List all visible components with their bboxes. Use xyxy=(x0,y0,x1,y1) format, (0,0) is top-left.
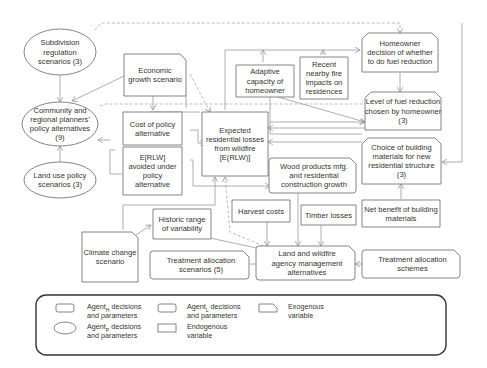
legend-swatch-agent-l xyxy=(158,304,176,312)
node-label-line: nearby fire xyxy=(306,69,342,78)
node-label-line: Expected xyxy=(219,126,251,135)
legend-swatch-agent-p xyxy=(54,322,76,334)
node-label-line: residences xyxy=(306,87,343,96)
node-climate: Climate changescenario xyxy=(82,232,138,282)
node-label-line: (3) xyxy=(397,170,407,179)
legend-swatch-exogenous xyxy=(259,304,277,312)
node-label-line: Level of fuel reduction xyxy=(366,97,440,106)
node-label-line: of variability xyxy=(162,224,202,233)
node-label-line: Cost of policy xyxy=(130,120,176,129)
node-label-line: Subdivision xyxy=(41,38,80,47)
node-label-line: Choice of building xyxy=(371,143,431,152)
node-label-line: alternative xyxy=(135,180,170,189)
node-label-line: avoided under xyxy=(128,162,177,171)
node-label-line: regional planners' xyxy=(30,115,90,124)
node-label-line: Net benefit of building xyxy=(364,205,437,214)
node-label-line: policy xyxy=(143,171,163,180)
node-label-line: Timber losses xyxy=(305,211,352,220)
legend-swatch-agent-h xyxy=(56,304,74,312)
node-label-line: Historic range xyxy=(159,215,206,224)
node-economic: Economicgrowth scenario xyxy=(124,54,186,96)
node-erlw-avoided: E[RLW]avoided underpolicyalternative xyxy=(123,147,182,195)
node-label-line: alternatives xyxy=(288,268,327,277)
node-net-benefit: Net benefit of buildingmaterials xyxy=(362,200,440,227)
node-label-line: scenarios (3) xyxy=(38,57,82,66)
node-label-line: impacts on xyxy=(306,78,343,87)
legend-label-exogenous-line2: variable xyxy=(288,311,313,320)
node-label-line: scenarios (3) xyxy=(38,180,82,189)
node-treatment-scen: Treatment allocationscenarios (5) xyxy=(150,251,249,279)
node-harvest: Harvest costs xyxy=(232,200,290,222)
node-label-line: decision of whether xyxy=(367,48,433,57)
edge-adaptive-down xyxy=(270,97,362,134)
node-label-line: capacity of xyxy=(247,77,284,86)
node-label-line: materials for new xyxy=(373,152,431,161)
node-label-line: (9) xyxy=(55,133,65,142)
node-label-line: schemes xyxy=(397,264,428,273)
node-label-line: agency management xyxy=(272,259,344,268)
node-label-line: Wood products mfg. xyxy=(280,162,348,171)
node-community: Community andregional planners'policy al… xyxy=(22,102,98,146)
node-wood-products: Wood products mfg.and residentialconstru… xyxy=(269,158,356,193)
legend: AgentH decisions and parameters AgentP d… xyxy=(36,295,446,355)
edge-right-loop xyxy=(442,23,462,162)
node-building-choice: Choice of buildingmaterials for newresid… xyxy=(362,138,441,184)
legend-label-endogenous-line2: variable xyxy=(187,331,212,340)
node-label-line: homeowner xyxy=(245,86,285,95)
node-timber: Timber losses xyxy=(301,205,356,225)
node-subdivision: Subdivisionregulationscenarios (3) xyxy=(24,29,96,75)
node-label-line: (3) xyxy=(398,116,408,125)
node-treatment-schemes: Treatment allocationschemes xyxy=(362,250,460,278)
node-label-line: Land and wildfire xyxy=(278,249,335,258)
node-label-line: Harvest costs xyxy=(238,207,284,216)
node-label-line: E[RLW] xyxy=(140,153,166,162)
node-historic: Historic rangeof variability xyxy=(153,209,211,239)
legend-label-endogenous: Endogenous xyxy=(187,322,228,331)
node-label-line: Treatment allocation xyxy=(167,256,236,265)
node-label-line: Homeowner xyxy=(380,39,421,48)
node-label-line: construction growth xyxy=(281,180,347,189)
node-label-line: alternative xyxy=(135,129,170,138)
node-label-line: from wildfire xyxy=(215,144,256,153)
node-label-line: Recent xyxy=(312,60,337,69)
edge-adaptive-to-level xyxy=(278,97,365,122)
node-fuel-level: Level of fuel reductionchosen by homeown… xyxy=(365,92,442,130)
conceptual-model-diagram: Subdivisionregulationscenarios (3)Commun… xyxy=(0,0,487,368)
edge-subdivision-to-homeowner xyxy=(95,23,400,33)
edge-cost-to-community xyxy=(110,150,122,174)
node-label-line: scenario xyxy=(96,257,125,266)
node-cost-policy: Cost of policyalternative xyxy=(123,112,182,145)
legend-label-agent-l-line2: and parameters xyxy=(187,311,238,320)
node-expected-losses: Expectedresidential lossesfrom wildfire[… xyxy=(202,112,268,176)
edge-economic-to-community xyxy=(72,76,124,101)
node-label-line: Adaptive xyxy=(250,67,280,76)
edge-climate-to-historic xyxy=(136,225,151,235)
node-label-line: Land use policy xyxy=(34,171,87,180)
edge-economic-to-expected xyxy=(190,74,210,112)
node-label-line: policy alternatives xyxy=(30,124,91,133)
node-homeowner-decision: Homeownerdecision of whetherto do fuel r… xyxy=(362,33,438,72)
legend-swatch-endogenous xyxy=(158,324,176,332)
node-label-line: chosen by homeowner xyxy=(365,107,442,116)
node-label-line: regulation xyxy=(43,48,76,57)
node-label-line: Community and xyxy=(33,106,86,115)
node-land-use: Land use policyscenarios (3) xyxy=(24,162,96,198)
legend-label-agent-h-line2: and parameters xyxy=(87,311,138,320)
node-label-line: Climate change xyxy=(84,248,137,257)
node-label-line: [E(RLW)] xyxy=(220,153,251,162)
node-label-line: Economic xyxy=(138,66,172,75)
legend-label-agent-p-line2: and parameters xyxy=(87,331,138,340)
node-label-line: residential structure xyxy=(368,161,434,170)
node-label-line: to do fuel reduction xyxy=(368,57,433,66)
node-recent-fire: Recentnearby fireimpacts onresidences xyxy=(300,57,348,99)
nodes: Subdivisionregulationscenarios (3)Commun… xyxy=(22,29,460,282)
node-label-line: Treatment allocation xyxy=(378,255,447,264)
node-label-line: materials xyxy=(386,214,417,223)
node-adaptive: Adaptivecapacity ofhomeowner xyxy=(236,65,294,97)
node-label-line: growth scenario xyxy=(128,75,182,84)
node-label-line: residential losses xyxy=(206,135,264,144)
node-label-line: scenarios (5) xyxy=(179,265,223,274)
node-label-line: and residential xyxy=(289,171,339,180)
legend-label-exogenous: Exogenous xyxy=(288,302,324,311)
node-land-agency: Land and wildfireagency managementaltern… xyxy=(256,246,355,280)
